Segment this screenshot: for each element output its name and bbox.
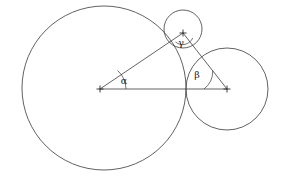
angle-label-alpha: α — [121, 75, 128, 86]
vertex-marker-beta — [224, 86, 231, 93]
arc-beta — [204, 71, 213, 89]
side-alpha-gamma — [100, 33, 183, 89]
vertex-marker-gamma — [180, 30, 187, 37]
geometry-canvas: α β γ — [0, 0, 287, 178]
side-beta-gamma — [183, 33, 227, 89]
angle-label-gamma: γ — [178, 37, 184, 48]
angle-label-beta: β — [194, 69, 200, 80]
geometry-diagram: α β γ — [0, 0, 287, 178]
vertex-marker-alpha — [97, 86, 104, 93]
large-circle — [22, 6, 186, 170]
